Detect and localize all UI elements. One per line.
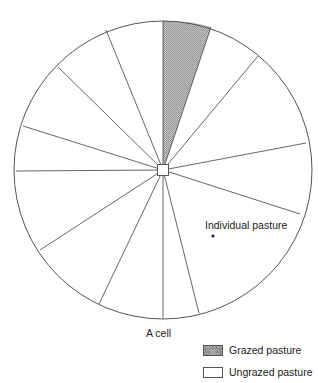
- legend-label: Ungrazed pasture: [229, 366, 312, 378]
- central-water-hub: [158, 165, 169, 176]
- individual-pasture-label: Individual pasture: [205, 219, 287, 231]
- fence-line: [163, 170, 199, 313]
- fence-line: [23, 126, 163, 170]
- fence-line: [16, 170, 163, 171]
- cell-caption: A cell: [146, 327, 171, 339]
- fence-line: [40, 170, 163, 250]
- legend-label: Grazed pasture: [229, 344, 301, 356]
- grazing-cell-diagram: [0, 0, 318, 383]
- legend-item-grazed: Grazed pasture: [203, 344, 301, 356]
- grazed-swatch-icon: [203, 345, 223, 356]
- fence-line: [163, 143, 306, 170]
- fence-line: [58, 67, 163, 170]
- legend-item-ungrazed: Ungrazed pasture: [203, 366, 312, 378]
- ungrazed-swatch-icon: [203, 367, 223, 378]
- fence-line: [99, 170, 163, 304]
- fence-line: [106, 30, 163, 170]
- individual-pasture-marker: [211, 234, 214, 237]
- fence-line: [163, 170, 300, 214]
